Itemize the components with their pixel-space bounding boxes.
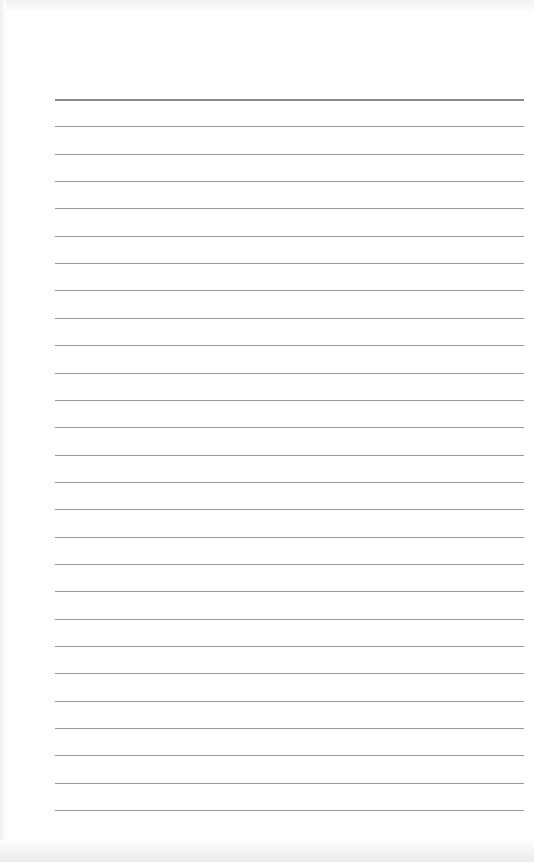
left-edge-shadow bbox=[0, 0, 6, 862]
ruled-line bbox=[55, 537, 524, 538]
ruled-line bbox=[55, 427, 524, 428]
ruled-line bbox=[55, 482, 524, 483]
ruled-line bbox=[55, 810, 524, 811]
ruled-line bbox=[55, 263, 524, 264]
ruled-line bbox=[55, 290, 524, 291]
ruled-line bbox=[55, 509, 524, 510]
ruled-line bbox=[55, 345, 524, 346]
ruled-line bbox=[55, 236, 524, 237]
ruled-line bbox=[55, 154, 524, 155]
ruled-line bbox=[55, 318, 524, 319]
ruled-line bbox=[55, 701, 524, 702]
ruled-line bbox=[55, 619, 524, 620]
ruled-line bbox=[55, 783, 524, 784]
ruled-line bbox=[55, 728, 524, 729]
lined-paper-page bbox=[0, 0, 534, 862]
top-edge-shadow bbox=[0, 0, 534, 12]
ruled-line bbox=[55, 181, 524, 182]
ruled-line bbox=[55, 591, 524, 592]
ruled-line bbox=[55, 646, 524, 647]
ruled-line bbox=[55, 564, 524, 565]
ruled-line bbox=[55, 673, 524, 674]
ruled-line bbox=[55, 373, 524, 374]
ruled-line bbox=[55, 99, 524, 101]
bottom-edge-shadow bbox=[0, 840, 534, 862]
ruled-line bbox=[55, 208, 524, 209]
ruled-line bbox=[55, 755, 524, 756]
ruled-line bbox=[55, 455, 524, 456]
ruled-line bbox=[55, 126, 524, 127]
ruled-line bbox=[55, 400, 524, 401]
